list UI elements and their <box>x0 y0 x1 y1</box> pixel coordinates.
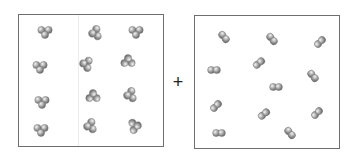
plus-operator: + <box>171 73 185 91</box>
diatomic-molecule-icon <box>281 125 299 141</box>
diatomic-molecule-icon <box>267 79 285 95</box>
triatomic-molecule-icon <box>33 94 51 110</box>
triatomic-molecule-icon <box>119 53 137 69</box>
atom-sphere <box>36 66 43 73</box>
diatomic-molecule-icon <box>205 62 223 78</box>
atom-sphere <box>132 31 139 38</box>
diatomic-molecule-icon <box>304 68 322 84</box>
atom-sphere <box>41 31 48 38</box>
atom-sphere <box>213 66 220 73</box>
triatomic-molecule-icon <box>77 56 95 72</box>
atom-sphere <box>89 90 96 97</box>
atom-sphere <box>124 55 131 62</box>
triatomic-molecule-icon <box>84 88 102 104</box>
diatomic-molecule-icon <box>215 29 233 45</box>
atom-sphere <box>37 129 44 136</box>
diatomic-molecule-icon <box>210 125 228 141</box>
triatomic-molecule-icon <box>127 24 145 40</box>
triatomic-molecule-icon <box>86 25 104 41</box>
atom-sphere <box>275 83 282 90</box>
triatomic-molecule-icon <box>31 59 49 75</box>
diatomic-molecule-icon <box>263 31 281 47</box>
diatomic-molecule-icon <box>250 55 268 71</box>
atom-sphere <box>38 101 45 108</box>
diatomic-molecule-icon <box>308 105 326 121</box>
faint-divider-line <box>78 15 79 146</box>
triatomic-molecule-icon <box>126 118 144 134</box>
diatomic-molecule-icon <box>255 106 273 122</box>
diatomic-molecule-icon <box>311 34 329 50</box>
diatomic-molecule-icon <box>207 98 225 114</box>
triatomic-molecule-icon <box>81 118 99 134</box>
triatomic-molecule-icon <box>121 87 139 103</box>
triatomic-molecule-icon <box>36 24 54 40</box>
atom-sphere <box>218 129 225 136</box>
triatomic-molecule-icon <box>32 122 50 138</box>
